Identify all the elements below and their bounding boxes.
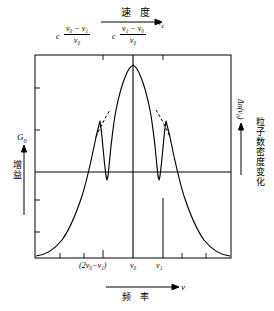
right-axis-arrow xyxy=(238,123,243,175)
left-arrow-head xyxy=(21,145,26,152)
dashed-left xyxy=(96,110,110,137)
dashed-right xyxy=(156,110,170,137)
frequency-axis-arrow xyxy=(106,284,179,290)
left-ticks xyxy=(35,88,40,232)
velocity-arrow-head xyxy=(155,19,162,25)
velocity-axis-arrows xyxy=(101,19,162,25)
freq-arrow-head xyxy=(172,284,179,290)
left-axis-arrow xyxy=(21,145,26,215)
right-arrow-head xyxy=(238,123,243,130)
figure-canvas: 速 度 vz c ν₀ − ν₁ ν₀ c ν₁ − ν₀ ν₀ G0 增益 Δ… xyxy=(0,0,274,311)
plot-svg xyxy=(0,0,274,311)
